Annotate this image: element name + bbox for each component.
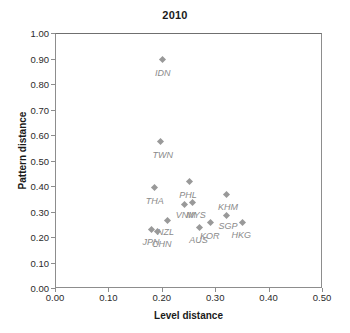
- y-tick-label: 0.90: [4, 53, 49, 64]
- data-point-label-twn: TWN: [153, 150, 174, 160]
- data-point-label-aus: AUS: [189, 235, 208, 245]
- scatter-chart: 2010 Pattern distance Level distance 0.0…: [0, 0, 350, 333]
- data-point-label-chn: CHN: [152, 239, 172, 249]
- x-tick-label: 0.20: [142, 292, 182, 303]
- y-tick-label: 0.20: [4, 232, 49, 243]
- x-tick-mark: [55, 288, 56, 292]
- data-point-nzl: [164, 217, 171, 224]
- data-point-jpn: [148, 226, 155, 233]
- y-tick-label: 0.80: [4, 79, 49, 90]
- x-tick-mark: [215, 288, 216, 292]
- x-axis-title: Level distance: [55, 310, 322, 321]
- y-tick-label: 0.60: [4, 130, 49, 141]
- x-tick-label: 0.00: [35, 292, 75, 303]
- x-tick-mark: [322, 288, 323, 292]
- y-tick-label: 1.00: [4, 28, 49, 39]
- data-point-tha: [151, 183, 158, 190]
- data-point-label-idn: IDN: [155, 68, 171, 78]
- data-point-idn: [159, 56, 166, 63]
- data-point-sgp: [223, 212, 230, 219]
- data-point-vnm: [181, 201, 188, 208]
- x-tick-label: 0.30: [195, 292, 235, 303]
- x-tick-mark: [269, 288, 270, 292]
- data-point-phl: [186, 178, 193, 185]
- data-point-label-khm: KHM: [218, 202, 238, 212]
- data-point-khm: [223, 191, 230, 198]
- y-tick-label: 0.50: [4, 155, 49, 166]
- y-tick-label: 0.70: [4, 104, 49, 115]
- data-point-label-mys: MYS: [186, 210, 206, 220]
- data-point-label-tha: THA: [146, 196, 164, 206]
- x-tick-mark: [162, 288, 163, 292]
- data-point-label-phl: PHL: [179, 190, 197, 200]
- x-tick-mark: [108, 288, 109, 292]
- y-tick-label: 0.10: [4, 257, 49, 268]
- plot-area: IDNTWNTHAPHLVNMMYSKHMNZLSGPHKGKORAUSJPNC…: [55, 33, 322, 288]
- x-tick-label: 0.50: [302, 292, 342, 303]
- x-tick-label: 0.40: [249, 292, 289, 303]
- x-tick-label: 0.10: [88, 292, 128, 303]
- y-tick-label: 0.40: [4, 181, 49, 192]
- data-point-label-hkg: HKG: [232, 230, 252, 240]
- data-point-kor: [207, 219, 214, 226]
- chart-title: 2010: [0, 9, 350, 21]
- data-point-hkg: [239, 219, 246, 226]
- data-point-twn: [157, 138, 164, 145]
- y-tick-label: 0.30: [4, 206, 49, 217]
